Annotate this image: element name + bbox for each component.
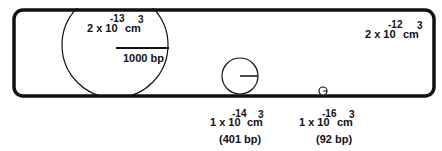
large-coefficient: 2 x 10 <box>87 23 118 34</box>
medium-coefficient: 1 x 10 <box>210 117 241 128</box>
medium-size-label: (401 bp) <box>219 134 261 145</box>
large-unit: cm <box>125 23 141 34</box>
container-coefficient: 2 x 10 <box>365 29 396 40</box>
large-size-label: 1000 bp <box>123 53 164 64</box>
small-size-label: (92 bp) <box>316 134 352 145</box>
small-unit: cm <box>337 117 353 128</box>
small-coefficient: 1 x 10 <box>299 117 330 128</box>
medium-unit: cm <box>247 117 263 128</box>
diagram-canvas <box>0 0 442 151</box>
container-unit: cm <box>403 29 419 40</box>
